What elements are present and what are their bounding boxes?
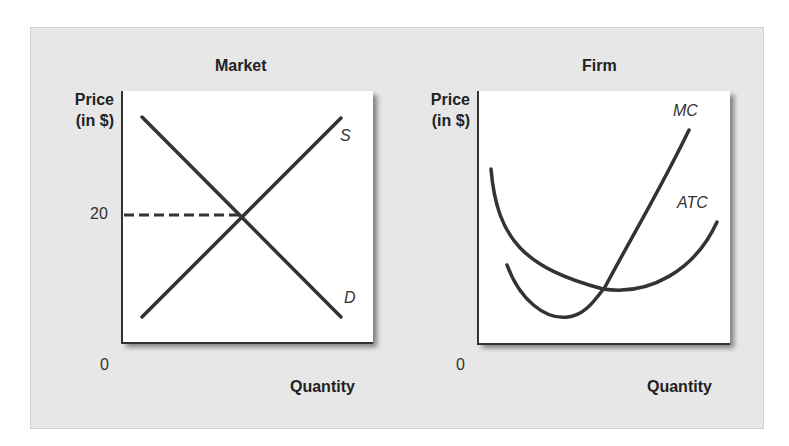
atc-label: ATC bbox=[677, 194, 708, 212]
mc-label: MC bbox=[673, 102, 698, 120]
atc-curve bbox=[491, 169, 717, 290]
firm-plot-svg bbox=[0, 0, 789, 446]
